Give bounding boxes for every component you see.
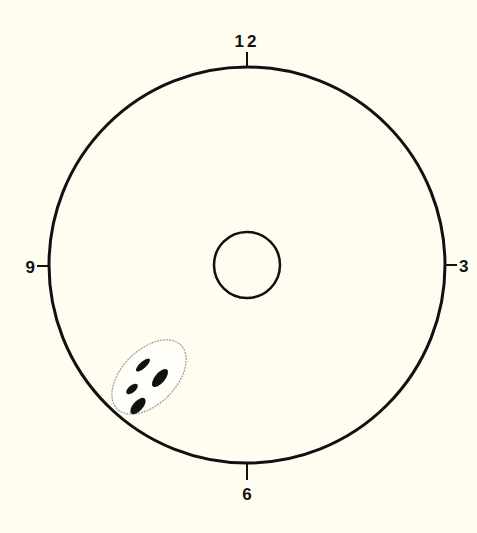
label-9: 9 [26, 258, 35, 277]
label-6: 6 [242, 485, 251, 504]
outer-circle [49, 67, 445, 463]
inner-circle [214, 232, 280, 298]
label-12: 12 [235, 32, 260, 51]
label-3: 3 [459, 257, 468, 276]
clock-diagram: 12 3 6 9 [0, 0, 477, 533]
